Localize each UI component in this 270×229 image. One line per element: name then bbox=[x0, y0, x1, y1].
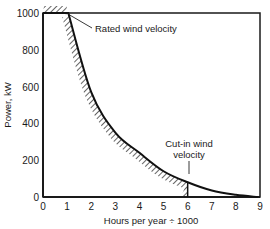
x-tick-label: 6 bbox=[185, 201, 191, 212]
y-tick-label: 1000 bbox=[17, 8, 40, 19]
x-tick-label: 3 bbox=[113, 201, 119, 212]
y-tick-label: 0 bbox=[33, 192, 39, 203]
x-axis-title: Hours per year ÷ 1000 bbox=[104, 215, 198, 226]
rated-wind-velocity-label: Rated wind velocity bbox=[95, 23, 177, 34]
x-tick-labels: 0123456789 bbox=[40, 201, 263, 212]
y-tick-labels: 02004006008001000 bbox=[17, 8, 40, 203]
cut-in-label-line2: velocity bbox=[173, 149, 205, 160]
y-tick-label: 600 bbox=[22, 82, 39, 93]
x-tick-label: 9 bbox=[257, 201, 263, 212]
power-duration-chart: Rated wind velocity Cut-in wind velocity… bbox=[0, 0, 270, 229]
x-tick-label: 8 bbox=[233, 201, 239, 212]
x-tick-label: 4 bbox=[137, 201, 143, 212]
cut-in-label-line1: Cut-in wind bbox=[165, 138, 213, 149]
x-tick-label: 0 bbox=[40, 201, 46, 212]
y-tick-label: 200 bbox=[22, 155, 39, 166]
x-tick-label: 7 bbox=[209, 201, 215, 212]
y-tick-label: 400 bbox=[22, 118, 39, 129]
x-tick-label: 1 bbox=[64, 201, 70, 212]
y-tick-label: 800 bbox=[22, 45, 39, 56]
x-tick-label: 5 bbox=[161, 201, 167, 212]
x-tick-label: 2 bbox=[88, 201, 94, 212]
y-axis-title: Power, kW bbox=[2, 82, 13, 127]
hatched-region bbox=[43, 6, 188, 197]
